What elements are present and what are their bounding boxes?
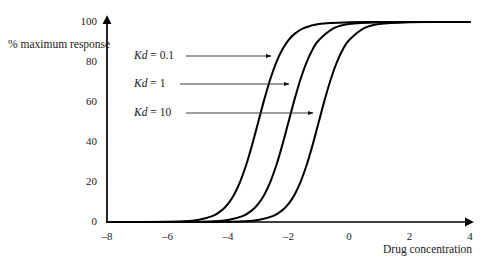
legend-label-kd-10: Kd = 10 xyxy=(134,106,171,119)
legend-kd-symbol: Kd xyxy=(134,77,147,89)
x-tick-label: –8 xyxy=(92,230,122,242)
y-tick-label: 0 xyxy=(63,215,97,227)
y-tick-label: 60 xyxy=(63,95,97,107)
x-tick-label: 4 xyxy=(455,230,485,242)
x-tick-label: 0 xyxy=(334,230,364,242)
y-axis-title: % maximum response xyxy=(8,38,88,51)
x-tick-label: –6 xyxy=(153,230,183,242)
x-tick-label: 2 xyxy=(395,230,425,242)
legend-kd-value: = 0.1 xyxy=(150,49,174,61)
legend-kd-value: = 1 xyxy=(150,77,165,89)
x-tick-label: –2 xyxy=(274,230,304,242)
y-tick-label: 80 xyxy=(63,55,97,67)
x-tick-label: –4 xyxy=(213,230,243,242)
dose-response-figure: % maximum response Drug concentration 02… xyxy=(0,0,489,268)
legend-kd-value: = 10 xyxy=(150,106,171,118)
y-tick-label: 100 xyxy=(63,15,97,27)
legend-label-kd-1: Kd = 1 xyxy=(134,77,165,90)
legend-kd-symbol: Kd xyxy=(134,49,147,61)
legend-label-kd-0-1: Kd = 0.1 xyxy=(134,49,174,62)
x-axis-title: Drug concentration xyxy=(383,243,472,256)
legend-kd-symbol: Kd xyxy=(134,106,147,118)
y-tick-label: 40 xyxy=(63,135,97,147)
y-tick-label: 20 xyxy=(63,175,97,187)
